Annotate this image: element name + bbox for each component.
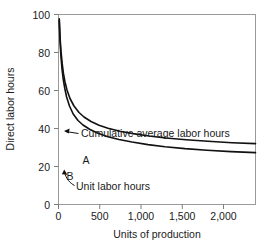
x-axis-ticks	[59, 205, 224, 210]
y-tick-label-0: 0	[44, 199, 50, 211]
cumulative-average-arrowhead	[64, 129, 70, 134]
cumulative-average-label: Cumulative average labor hours	[81, 127, 230, 139]
y-tick-label-40: 40	[38, 123, 50, 135]
x-axis-title: Units of production	[113, 228, 201, 240]
unit-labor-hours-label: Unit labor hours	[76, 180, 150, 192]
cumulative-average-leader	[64, 129, 79, 134]
y-tick-label-20: 20	[38, 161, 50, 173]
y-tick-label-100: 100	[32, 9, 50, 21]
x-tick-label-2000: 2,000	[210, 210, 236, 222]
y-tick-label-60: 60	[38, 85, 50, 97]
plot-frame	[59, 15, 256, 205]
y-tick-label-80: 80	[38, 47, 50, 59]
x-tick-label-500: 500	[91, 210, 109, 222]
curve-cumulative-average	[59, 19, 255, 144]
x-tick-label-1500: 1,500	[169, 210, 195, 222]
x-tick-label-1000: 1,000	[128, 210, 154, 222]
learning-curve-figure: 100 80 60 40 20 0 0 500 1,000 1,500 2,00…	[0, 0, 267, 245]
y-axis-ticks	[54, 15, 59, 205]
chart-canvas: 100 80 60 40 20 0 0 500 1,000 1,500 2,00…	[0, 0, 267, 245]
curve-letter-b: B	[66, 170, 73, 182]
y-axis-title: Direct labor hours	[4, 68, 16, 151]
curve-letter-a: A	[82, 154, 89, 166]
x-tick-label-0: 0	[56, 210, 62, 222]
